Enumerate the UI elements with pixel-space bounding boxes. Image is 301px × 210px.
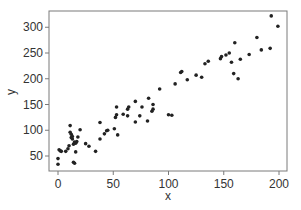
data-point (206, 59, 210, 63)
data-point (67, 144, 71, 148)
data-point (194, 73, 198, 77)
data-point (115, 105, 119, 109)
data-point (268, 47, 272, 51)
data-point (134, 100, 138, 104)
data-point (276, 24, 280, 28)
data-point (232, 72, 236, 76)
data-point (98, 137, 102, 141)
data-point (167, 113, 171, 117)
data-point (76, 135, 80, 139)
data-point (185, 78, 189, 82)
data-point (68, 124, 72, 128)
data-point (236, 77, 240, 81)
data-point (106, 128, 110, 132)
data-point (71, 135, 75, 139)
scatter-chart: 050100150200 50100150200250300 x y (0, 0, 301, 210)
data-point (180, 70, 184, 74)
data-point (56, 157, 60, 161)
data-point (146, 119, 150, 123)
data-point (73, 161, 77, 165)
data-point (87, 144, 91, 148)
data-point (203, 62, 207, 66)
data-point (239, 57, 243, 61)
x-tick-label: 50 (107, 177, 121, 191)
y-tick-label: 100 (23, 123, 43, 137)
data-point (103, 132, 107, 136)
data-point (134, 120, 138, 124)
data-point (78, 128, 82, 132)
y-tick-label: 50 (30, 149, 44, 163)
data-point (66, 147, 70, 151)
data-point (98, 121, 102, 125)
data-point (200, 75, 204, 79)
data-point (140, 105, 144, 109)
y-axis-label: y (4, 89, 18, 95)
data-point (121, 112, 125, 116)
data-point (260, 48, 264, 52)
data-point (115, 113, 119, 117)
data-point (151, 103, 155, 107)
data-point (269, 14, 273, 18)
x-tick-label: 0 (55, 177, 62, 191)
data-point (224, 53, 228, 57)
data-point (127, 105, 131, 109)
x-tick-label: 150 (214, 177, 234, 191)
x-tick-label: 200 (269, 177, 289, 191)
data-point (138, 114, 142, 118)
data-point (75, 140, 79, 144)
data-point (116, 133, 120, 137)
data-point (84, 142, 88, 146)
data-point (233, 41, 237, 45)
data-point (170, 114, 174, 118)
data-point (230, 60, 234, 64)
y-tick-label: 250 (23, 46, 43, 60)
x-axis-label: x (165, 189, 171, 203)
data-point (60, 150, 64, 154)
y-tick-label: 300 (23, 20, 43, 34)
data-point (147, 97, 151, 101)
data-point (247, 53, 251, 57)
data-point (255, 36, 259, 40)
data-point (151, 107, 155, 111)
data-point (126, 114, 130, 118)
data-point (173, 82, 177, 86)
y-tick-label: 150 (23, 98, 43, 112)
data-point (227, 51, 231, 55)
data-point (94, 150, 98, 154)
data-point (158, 87, 162, 91)
data-point (74, 150, 78, 154)
y-tick-label: 200 (23, 72, 43, 86)
data-point (220, 55, 224, 59)
data-point (113, 127, 117, 131)
data-point (56, 162, 60, 166)
